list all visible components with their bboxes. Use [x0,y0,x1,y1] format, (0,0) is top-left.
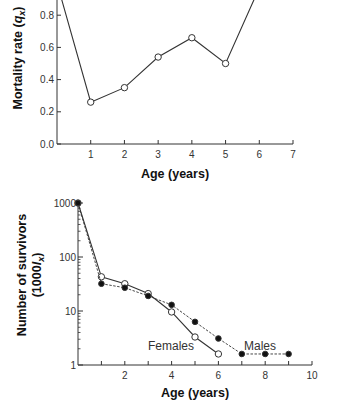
males-label: Males [244,339,276,353]
x-tick-label: 4 [189,149,195,160]
chart-figure: 12345670.00.20.40.60.8 Age (years) Morta… [0,0,343,412]
data-point-filled-circle [145,293,151,299]
y-tick-label: 0.0 [40,139,54,150]
data-point-filled-circle [192,319,198,325]
data-point-open-circle [222,60,228,66]
x-tick-label: 3 [155,149,161,160]
x-tick-label: 6 [257,149,263,160]
y-tick-label: 100 [59,252,76,263]
x-tick-label: 10 [306,370,318,381]
x-tick-label: 1 [88,149,94,160]
data-point-open-circle [88,99,94,105]
y-tick-label: 1000 [54,198,77,209]
mortality-ticks: 12345670.00.20.40.60.8 [40,10,296,160]
y-tick-label: 0.2 [40,106,54,117]
data-point-filled-circle [122,285,128,291]
data-point-filled-circle [169,302,175,308]
data-point-filled-circle [216,336,222,342]
mortality-x-axis-title: Age (years) [141,167,209,181]
mortality-series [57,0,259,105]
data-point-open-circle [155,54,161,60]
survivorship-chart: 2468101101001000 Females Males Age (year… [15,198,318,401]
survivorship-y-axis-title-line2: (1000lx) [30,253,46,298]
y-tick-label: 1 [70,360,76,371]
mortality-rate-chart: 12345670.00.20.40.60.8 Age (years) Morta… [11,0,296,181]
x-tick-label: 5 [223,149,229,160]
data-point-open-circle [215,351,221,357]
females-label: Females [148,339,194,353]
mortality-line [57,0,259,102]
x-tick-label: 7 [290,149,296,160]
survivorship-x-axis-title: Age (years) [161,386,229,400]
y-tick-label: 10 [65,306,77,317]
x-tick-label: 2 [122,149,128,160]
ylabel-close: ) [11,7,25,11]
data-point-open-circle [189,35,195,41]
survivorship-series [75,200,292,357]
data-point-open-circle [168,309,174,315]
data-point-filled-circle [286,351,292,357]
y-tick-label: 0.8 [40,10,54,21]
x-tick-label: 4 [169,370,175,381]
data-point-filled-circle [75,200,81,206]
ylabel2-close: ) [30,253,44,257]
y-tick-label: 0.4 [40,74,54,85]
ylabel-text: Mortality rate ( [11,23,25,110]
mortality-axes [57,0,293,144]
x-tick-label: 6 [216,370,222,381]
data-point-open-circle [121,84,127,90]
data-point-filled-circle [99,281,105,287]
x-tick-label: 2 [122,370,128,381]
y-tick-label: 0.6 [40,42,54,53]
ylabel2-open: (1000 [30,265,44,297]
males-line [78,203,289,354]
mortality-y-axis-title: Mortality rate (qx) [11,7,27,110]
x-tick-label: 8 [262,370,268,381]
survivorship-y-axis-title-line1: Number of survivors [15,214,29,336]
survivorship-ticks: 2468101101001000 [54,198,318,382]
